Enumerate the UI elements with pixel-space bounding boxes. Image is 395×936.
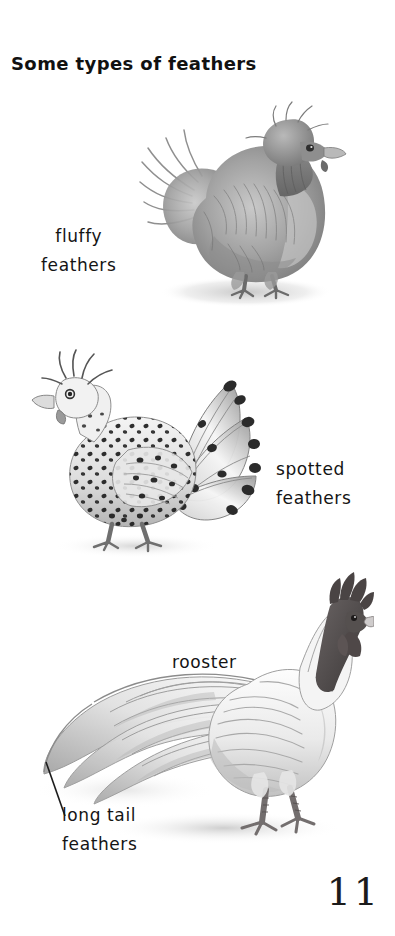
label-spotted-feathers: spotted feathers — [276, 455, 351, 513]
eye — [306, 145, 314, 152]
label-spotted-line1: spotted — [276, 455, 351, 484]
eye-highlight — [310, 146, 312, 148]
label-long-tail-feathers: long tail feathers — [62, 801, 137, 859]
illustration-spotted-hen — [16, 338, 272, 568]
book-page: Some types of feathers — [0, 0, 395, 936]
page-title: Some types of feathers — [11, 53, 257, 74]
wattle — [321, 160, 328, 172]
eye-pupil — [68, 392, 72, 396]
label-fluffy-feathers: fluffy feathers — [41, 222, 116, 280]
eye — [351, 615, 357, 621]
ground-shadow — [106, 812, 342, 844]
illustration-silkie-chicken — [136, 86, 348, 312]
label-fluffy-line1: fluffy — [41, 222, 116, 251]
eye-highlight — [354, 616, 356, 618]
label-long-tail-line2: feathers — [62, 830, 137, 859]
label-spotted-line2: feathers — [276, 484, 351, 513]
label-rooster: rooster — [172, 648, 237, 677]
beak — [32, 395, 54, 408]
ground-shadow — [54, 534, 218, 558]
label-fluffy-line2: feathers — [41, 251, 116, 280]
page-number: 11 — [327, 870, 381, 914]
beak — [324, 147, 346, 158]
label-long-tail-line1: long tail — [62, 801, 137, 830]
